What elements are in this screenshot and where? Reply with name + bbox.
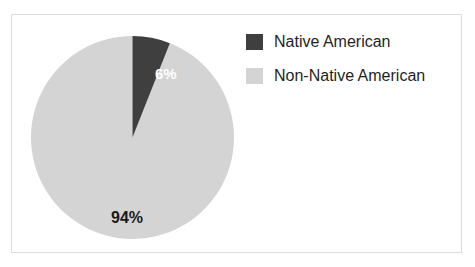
legend-swatch-native-american xyxy=(246,34,263,50)
legend-item-non-native-american[interactable]: Non-Native American xyxy=(246,68,425,84)
pie-label-native-american: 6% xyxy=(155,66,177,81)
legend-label-non-native-american: Non-Native American xyxy=(274,68,425,84)
pie-chart: 6% 94% xyxy=(31,36,234,239)
legend-item-native-american[interactable]: Native American xyxy=(246,34,425,50)
pie-label-non-native-american: 94% xyxy=(111,210,143,226)
legend-label-native-american: Native American xyxy=(274,34,391,50)
legend-swatch-non-native-american xyxy=(246,68,263,84)
chart-legend: Native American Non-Native American xyxy=(246,34,425,84)
pie-chart-plot-area: 6% 94% Native American Non-Native Americ… xyxy=(12,15,461,252)
chart-frame: 6% 94% Native American Non-Native Americ… xyxy=(11,14,462,253)
